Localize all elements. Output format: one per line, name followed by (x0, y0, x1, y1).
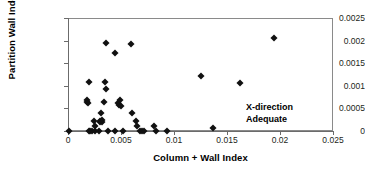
x-tick-mark (333, 131, 334, 135)
scatter-chart-figure: 00.00050.0010.00150.0020.0025 00.0050.01… (0, 0, 365, 178)
data-point (163, 127, 170, 134)
x-tick-mark (174, 131, 175, 135)
x-tick-mark (227, 131, 228, 135)
x-tick-mark (280, 131, 281, 135)
x-tick-label: 0.015 (207, 136, 247, 145)
x-tick-label: 0.01 (154, 136, 194, 145)
y-tick-mark (64, 86, 68, 87)
y-tick-label: 0.002 (303, 37, 365, 46)
y-tick-mark (64, 63, 68, 64)
x-tick-label: 0.005 (101, 136, 141, 145)
y-axis-line (68, 18, 69, 132)
y-tick-mark (64, 108, 68, 109)
data-point (65, 127, 72, 134)
y-tick-mark (64, 18, 68, 19)
x-tick-label: 0.02 (260, 136, 300, 145)
y-axis-title: Partition Wall Index (6, 0, 17, 90)
annotation-line-1: X-direction (246, 101, 293, 113)
x-tick-label: 0 (48, 136, 88, 145)
y-tick-label: 0.001 (303, 82, 365, 91)
y-tick-label: 0.0015 (303, 59, 365, 68)
x-axis-title: Column + Wall Index (68, 152, 333, 163)
x-tick-label: 0.025 (313, 136, 353, 145)
annotation-line-2: Adequate (246, 113, 293, 125)
chart-annotation: X-direction Adequate (246, 101, 293, 125)
y-tick-label: 0.0005 (303, 104, 365, 113)
y-tick-label: 0.0025 (303, 14, 365, 23)
y-tick-mark (64, 41, 68, 42)
